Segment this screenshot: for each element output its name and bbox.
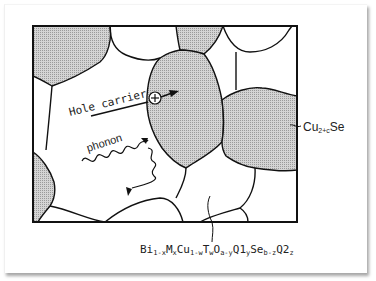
matrix-phase-annotation: Bi1-xMxCu1-wTwOa-yQ1ySeb-zQ2z (140, 196, 294, 257)
grain-center-shaded (147, 50, 224, 168)
phonon-label: phonon (85, 131, 124, 154)
secondary-phase-annotation: Cu2+cSe (290, 120, 345, 134)
grain-left-shaded (33, 152, 55, 222)
phonon-scatter-wave-icon (132, 148, 156, 188)
grain-region (33, 26, 297, 222)
matrix-formula-label: Bi1-xMxCu1-wTwOa-yQ1ySeb-zQ2z (140, 243, 294, 257)
phonon-annotation: phonon (82, 131, 156, 196)
grain-right-shaded (222, 88, 297, 171)
grain-top-left-shaded (33, 26, 111, 86)
cu-se-label: Cu2+cSe (303, 120, 345, 134)
hole-carrier-label: Hole carrier (68, 87, 149, 119)
microstructure-diagram: Hole carrier phonon Cu2+cSe Bi1-xMxCu1-w… (0, 0, 376, 281)
